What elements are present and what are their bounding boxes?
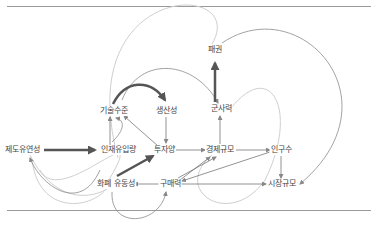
edges-layer: [0, 0, 377, 226]
node-purchasing-power: 구매력: [159, 179, 182, 189]
node-market-size: 시장규모: [267, 179, 297, 189]
node-institutional-flexibility: 제도유연성: [4, 145, 41, 155]
node-hegemony: 패권: [207, 45, 223, 55]
node-population: 인구수: [270, 145, 293, 155]
node-productivity: 생산성: [155, 106, 178, 116]
node-liquidity: 화폐 유동성: [96, 179, 136, 189]
gray-loops: [30, 29, 342, 219]
node-military: 군사력: [210, 104, 233, 114]
node-investment: 투자양: [153, 145, 176, 155]
light-loops: [30, 5, 280, 204]
node-tech-level: 기술수준: [99, 106, 129, 116]
node-economy-size: 경제규모: [205, 145, 235, 155]
node-talent-inflow: 인재유입량: [100, 145, 137, 155]
strong-edges: [44, 63, 215, 176]
